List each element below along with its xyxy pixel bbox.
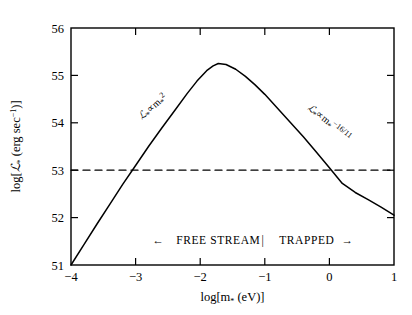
figure-container: −4−3−2−101515253545556log[m* (eV)]log[ℒ*… (0, 0, 412, 315)
free-stream-label: FREE STREAM (176, 234, 260, 246)
x-tick-label-5: 1 (391, 270, 397, 284)
free-stream-arrow-icon: ← (152, 234, 164, 246)
y-tick-label-4: 55 (52, 69, 65, 83)
plot-root: −4−3−2−101515253545556log[m* (eV)]log[ℒ*… (9, 22, 397, 307)
y-axis-title-text: log[ℒ* (erg sec−1)] (9, 100, 25, 192)
x-tick-label-4: 0 (326, 270, 332, 284)
region-bar-annotation: ←FREE STREAM|TRAPPED→ (152, 234, 353, 247)
y-tick-label-5: 56 (52, 22, 65, 36)
left-scaling-annotation-text: ℒ*∝m*2 (135, 90, 170, 123)
y-axis-title: log[ℒ* (erg sec−1)] (9, 100, 25, 192)
x-tick-label-0: −4 (64, 270, 78, 284)
right-scaling-annotation: ℒ*∝m*−16/11 (304, 101, 354, 145)
trapped-label: TRAPPED (279, 234, 334, 246)
y-tick-label-3: 54 (52, 116, 65, 130)
region-divider: | (261, 234, 264, 247)
right-scaling-annotation-text: ℒ*∝m*−16/11 (304, 101, 354, 145)
plot-svg: −4−3−2−101515253545556log[m* (eV)]log[ℒ*… (0, 0, 412, 315)
y-tick-label-1: 52 (52, 211, 65, 225)
x-tick-label-1: −3 (129, 270, 142, 284)
x-tick-label-2: −2 (194, 270, 207, 284)
y-tick-label-2: 53 (52, 164, 65, 178)
trapped-arrow-icon: → (341, 234, 353, 246)
x-tick-label-3: −1 (258, 270, 271, 284)
left-scaling-annotation: ℒ*∝m*2 (135, 90, 170, 123)
axes-frame (71, 28, 394, 265)
x-axis-title: log[m* (eV)] (200, 290, 264, 306)
y-tick-label-0: 51 (52, 259, 65, 273)
